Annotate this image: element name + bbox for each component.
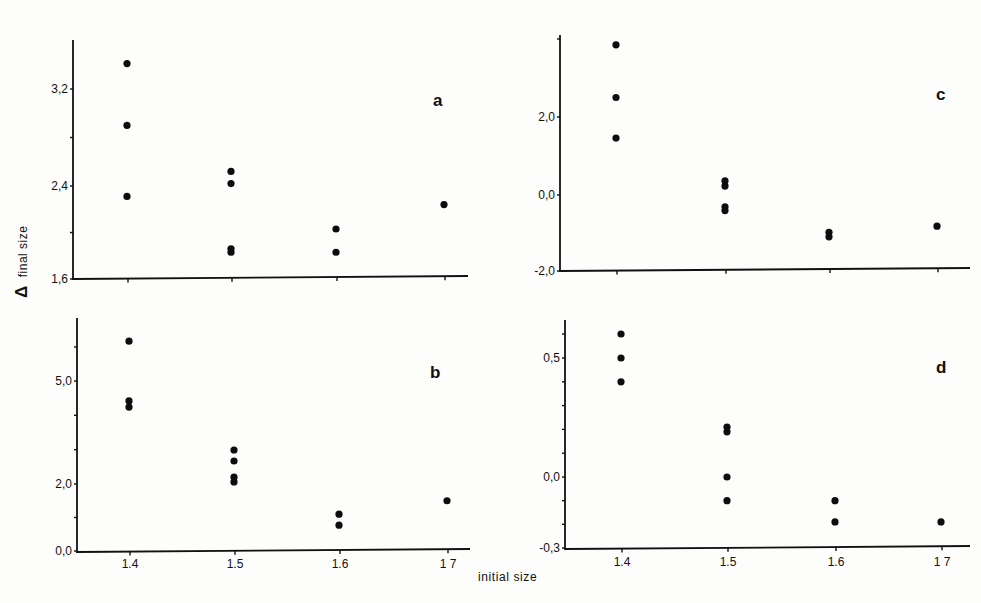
data-point — [721, 207, 728, 214]
data-point — [227, 168, 234, 175]
panel-label: c — [936, 85, 945, 104]
figure: 1,62,43,2a-2,00,02,0c0,02,05,01.41.51.61… — [0, 0, 981, 603]
data-point — [723, 497, 730, 504]
x-tick-label: 1 7 — [440, 557, 457, 571]
x-axis-line — [77, 549, 470, 552]
y-tick-label: 2,0 — [538, 110, 555, 124]
data-point — [831, 518, 838, 525]
x-tick-label: 1 7 — [934, 555, 951, 569]
y-tick-label: 2,4 — [51, 179, 68, 193]
x-axis-line — [560, 268, 970, 271]
y-tick-label: -2,0 — [534, 264, 555, 278]
panel-label: d — [936, 358, 946, 377]
y-tick-label: 5,0 — [55, 374, 72, 388]
data-point — [443, 497, 450, 504]
y-tick-label: 0,5 — [543, 351, 560, 365]
y-tick-label: 1,6 — [51, 272, 68, 286]
data-point — [125, 403, 132, 410]
data-point — [723, 473, 730, 480]
data-point — [721, 182, 728, 189]
data-point — [230, 457, 237, 464]
scatter-panels: 1,62,43,2a-2,00,02,0c0,02,05,01.41.51.61… — [0, 0, 981, 603]
y-tick-label: 3,2 — [51, 82, 68, 96]
data-point — [831, 497, 838, 504]
data-point — [230, 446, 237, 453]
y-tick-label: 0,0 — [538, 188, 555, 202]
data-point — [230, 478, 237, 485]
x-tick-label: 1.6 — [332, 557, 349, 571]
data-point — [335, 522, 342, 529]
data-point — [335, 511, 342, 518]
y-axis-label: Δfinal size — [12, 226, 32, 298]
panel-label: a — [433, 91, 443, 110]
data-point — [123, 122, 130, 129]
y-tick-label: 0,0 — [543, 470, 560, 484]
data-point — [937, 518, 944, 525]
x-axis-line — [565, 546, 970, 549]
data-point — [617, 330, 624, 337]
data-point — [227, 180, 234, 187]
x-axis-label: initial size — [478, 570, 537, 584]
data-point — [617, 354, 624, 361]
y-tick-label: -0,3 — [539, 541, 560, 555]
x-tick-label: 1.4 — [614, 555, 631, 569]
data-point — [612, 134, 619, 141]
data-point — [825, 233, 832, 240]
data-point — [123, 60, 130, 67]
y-axis-label-text: final size — [16, 226, 30, 278]
panel-label: b — [430, 363, 440, 382]
data-point — [617, 378, 624, 385]
x-tick-label: 1.5 — [720, 555, 737, 569]
data-point — [332, 249, 339, 256]
y-tick-label: 0,0 — [55, 544, 72, 558]
x-tick-label: 1.5 — [227, 557, 244, 571]
x-tick-label: 1.6 — [828, 555, 845, 569]
data-point — [332, 225, 339, 232]
y-tick-label: 2,0 — [55, 477, 72, 491]
data-point — [125, 397, 132, 404]
delta-symbol: Δ — [12, 285, 31, 298]
data-point — [123, 193, 130, 200]
data-point — [440, 201, 447, 208]
data-point — [612, 94, 619, 101]
data-point — [125, 338, 132, 345]
data-point — [612, 41, 619, 48]
data-point — [933, 223, 940, 230]
x-tick-label: 1.4 — [122, 557, 139, 571]
data-point — [227, 249, 234, 256]
data-point — [723, 428, 730, 435]
x-axis-line — [73, 276, 468, 279]
